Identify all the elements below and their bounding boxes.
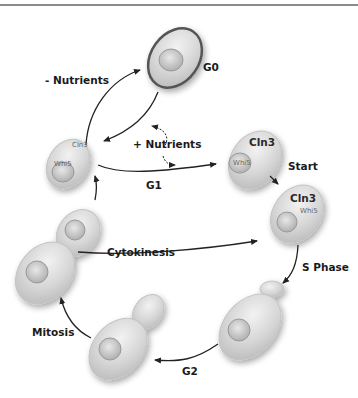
label-start: Start	[288, 160, 318, 172]
arrow-to-g1-from-g0	[104, 92, 158, 141]
label-g1: G1	[146, 179, 162, 191]
protein-start-cln3: Cln3	[249, 136, 275, 148]
label-plus-nutrients: + Nutrients	[133, 138, 201, 150]
label-g2: G2	[182, 365, 198, 377]
label-mitosis: Mitosis	[32, 326, 74, 338]
arrow-start	[270, 176, 278, 184]
protein-s-whi5: Whi5	[300, 207, 318, 215]
cell-g2-budded	[206, 281, 293, 372]
protein-start-whi5: Whi5	[233, 159, 251, 167]
protein-g1-cln3: Cln3	[72, 141, 88, 149]
cell-start	[218, 121, 293, 199]
label-cytokinesis: Cytokinesis	[107, 246, 175, 258]
label-g0: G0	[203, 61, 219, 73]
arrow-s-phase	[283, 245, 298, 283]
label-minus-nutrients: - Nutrients	[45, 74, 109, 86]
protein-s-cln3: Cln3	[290, 192, 316, 204]
arrow-plus-nutrients-lower	[163, 156, 175, 165]
cell-s-entry	[260, 175, 335, 253]
label-s-phase: S Phase	[302, 261, 349, 273]
arrow-g1	[98, 164, 216, 171]
arrow-mitosis-to-cytokinesis	[95, 176, 97, 200]
arrow-g2	[155, 344, 218, 361]
cell-g0	[137, 18, 213, 98]
cell-mitosis	[77, 288, 170, 391]
protein-g1-whi5: Whi5	[54, 160, 72, 168]
cell-cytokinesis	[3, 201, 108, 316]
